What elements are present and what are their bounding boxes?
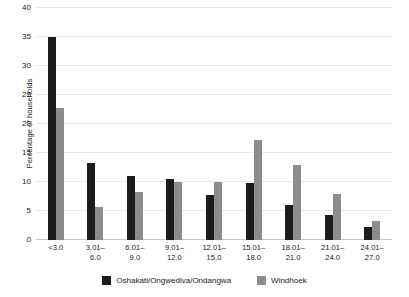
x-axis-tick-label: 24.01–27.0: [349, 243, 395, 263]
bar-group: [48, 8, 64, 240]
bar: [293, 165, 301, 240]
plot-area: 0510152025303540: [36, 8, 392, 240]
y-axis-tick-label: 30: [22, 61, 31, 70]
bars-layer: [36, 8, 392, 240]
bar: [135, 192, 143, 240]
bar: [206, 195, 214, 240]
bar: [364, 227, 372, 240]
legend-label: Oshakati/Ongwediva/Ondangwa: [116, 276, 231, 285]
x-axis-tick-labels: <3.03.01–6.06.01–9.09.01–12.012.01–15.01…: [36, 243, 392, 273]
bar-group: [285, 8, 301, 240]
legend-label: Windhoek: [271, 276, 307, 285]
y-axis-tick-label: 35: [22, 32, 31, 41]
y-axis-tick-label: 10: [22, 177, 31, 186]
bar: [127, 176, 135, 240]
bar-group: [127, 8, 143, 240]
y-axis-tick-label: 15: [22, 148, 31, 157]
y-axis-tick-label: 0: [27, 235, 31, 244]
bar: [372, 221, 380, 240]
bar-group: [166, 8, 182, 240]
bar-group: [87, 8, 103, 240]
chart-legend: Oshakati/Ongwediva/OndangwaWindhoek: [0, 276, 409, 285]
bar: [174, 182, 182, 240]
legend-item: Oshakati/Ongwediva/Ondangwa: [102, 276, 231, 285]
bar: [56, 108, 64, 240]
y-axis-tick-label: 20: [22, 119, 31, 128]
bar: [87, 163, 95, 240]
y-axis-tick-label: 5: [27, 206, 31, 215]
bar: [325, 215, 333, 240]
bar: [48, 37, 56, 240]
legend-swatch: [257, 276, 266, 285]
bar: [166, 179, 174, 240]
bar-group: [206, 8, 222, 240]
bar: [254, 140, 262, 240]
bar: [246, 183, 254, 240]
bar-group: [325, 8, 341, 240]
bar: [95, 207, 103, 240]
bar-chart: Percentage of households 051015202530354…: [0, 0, 409, 297]
legend-swatch: [102, 276, 111, 285]
bar: [333, 194, 341, 240]
bar-group: [364, 8, 380, 240]
legend-item: Windhoek: [257, 276, 307, 285]
y-axis-tick-label: 40: [22, 3, 31, 12]
bar: [285, 205, 293, 240]
y-axis-tick-label: 25: [22, 90, 31, 99]
bar-group: [246, 8, 262, 240]
bar: [214, 182, 222, 240]
